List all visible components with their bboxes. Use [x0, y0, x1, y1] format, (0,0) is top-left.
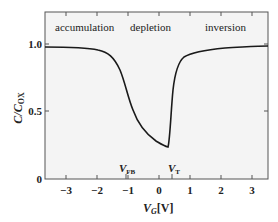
x-tick-labels: −3 −2 −1 0 1 2 3: [60, 184, 255, 196]
cv-chart: accumulation depletion inversion VFB VT …: [0, 0, 278, 222]
x-tick-label: 2: [218, 184, 224, 196]
region-accumulation-label: accumulation: [55, 21, 115, 33]
x-tick-label: −1: [122, 184, 134, 196]
x-tick-label: −3: [60, 184, 72, 196]
x-tick-label: 3: [249, 184, 255, 196]
y-tick-label: 0: [37, 173, 43, 185]
plot-area: [45, 12, 268, 179]
y-tick-label: 1.0: [28, 38, 42, 50]
x-tick-label: −2: [91, 184, 103, 196]
y-axis-label: C/COX: [11, 92, 26, 124]
region-inversion-label: inversion: [205, 21, 246, 33]
y-tick-label: 0.5: [28, 105, 42, 117]
x-tick-label: 0: [156, 184, 162, 196]
x-tick-label: 1: [187, 184, 193, 196]
region-depletion-label: depletion: [130, 21, 171, 33]
x-axis-label: VG[V]: [143, 201, 173, 216]
